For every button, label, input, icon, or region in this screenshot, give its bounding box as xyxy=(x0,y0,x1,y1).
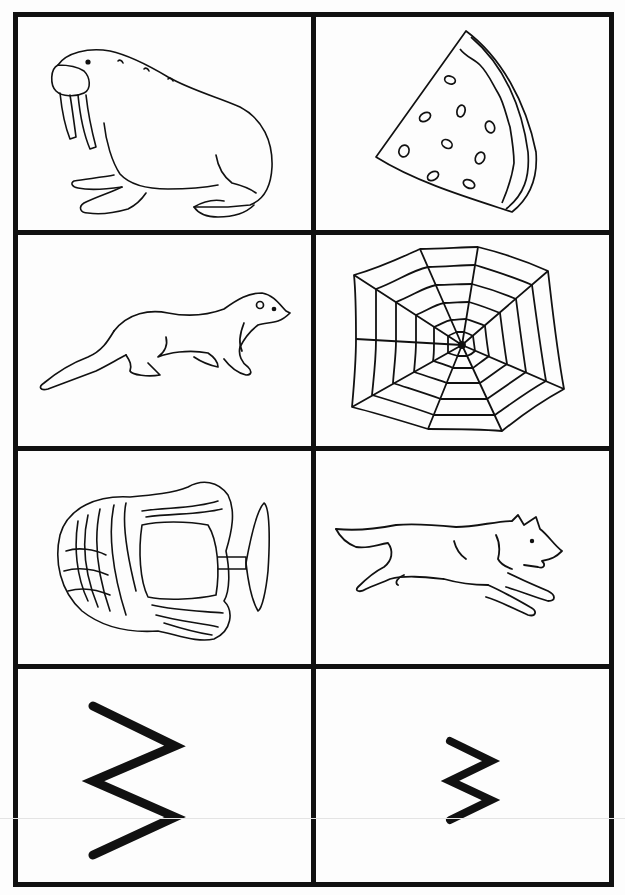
watermelon-slice-icon xyxy=(316,17,609,230)
worksheet-page: walrus watermelon xyxy=(0,0,625,895)
card-uppercase-w: uppercase W (rotated) xyxy=(18,669,311,886)
card-wig: wig xyxy=(18,451,311,664)
scan-artifact-line xyxy=(0,818,625,819)
card-watermelon: watermelon xyxy=(316,17,609,230)
walrus-icon xyxy=(18,17,311,230)
card-weasel: weasel xyxy=(18,235,311,446)
wolf-icon xyxy=(316,451,609,664)
weasel-icon xyxy=(18,235,311,446)
card-lowercase-w: lowercase w (rotated) xyxy=(316,669,609,886)
card-web: web xyxy=(316,235,609,446)
card-walrus: walrus xyxy=(18,17,311,230)
lowercase-w-icon xyxy=(316,669,609,886)
wig-on-stand-icon xyxy=(18,451,311,664)
card-wolf: wolf xyxy=(316,451,609,664)
spider-web-icon xyxy=(316,235,609,446)
uppercase-w-icon xyxy=(18,669,311,886)
